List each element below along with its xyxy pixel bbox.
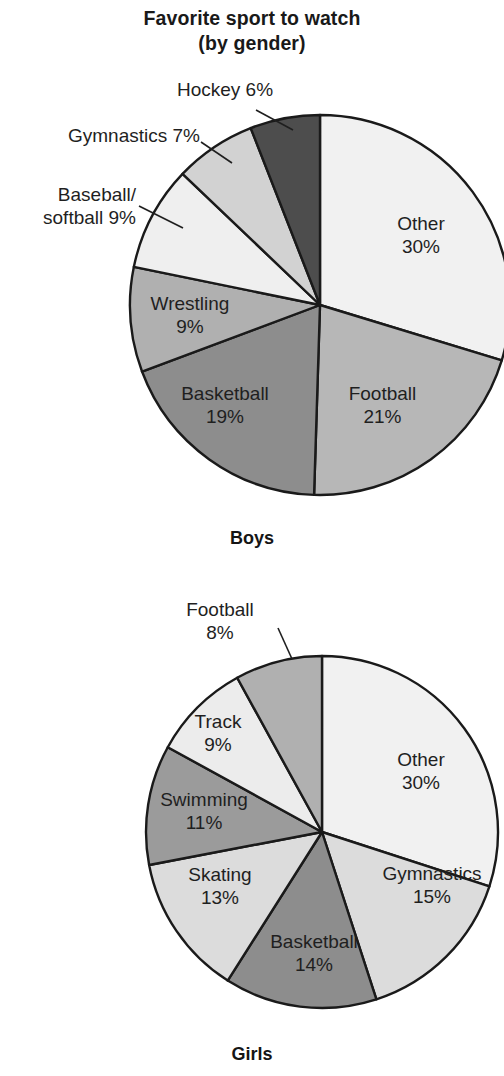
boys-caption: Boys [0,528,504,549]
girls-label-track: Track 9% [175,710,261,756]
leader-line-hockey [256,110,293,130]
girls-label-basketball-name: Basketball [270,931,358,952]
boys-label-basketball-name: Basketball [181,383,269,404]
pie-slice-baseball-softball [134,174,320,305]
chart-title: Favorite sport to watch (by gender) [0,6,504,56]
girls-label-other-name: Other [397,749,445,770]
boys-label-other-name: Other [397,213,445,234]
girls-label-football-pct: 8% [155,621,285,644]
girls-label-skating-name: Skating [188,864,251,885]
boys-label-baseball-line-1: Baseball/ [58,184,136,205]
boys-label-basketball-pct: 19% [160,405,290,428]
pie-slice-gymnastics [183,128,320,305]
girls-label-skating-pct: 13% [165,886,275,909]
girls-label-football-name: Football [186,599,254,620]
girls-label-swimming-name: Swimming [160,789,248,810]
boys-label-other-pct: 30% [376,235,466,258]
boys-label-basketball: Basketball 19% [160,382,290,428]
boys-label-gymnastics-text: Gymnastics 7% [68,125,200,146]
boys-label-baseball-line-2: softball 9% [0,206,136,229]
boys-label-football: Football 21% [325,382,440,428]
girls-label-basketball: Basketball 14% [250,930,378,976]
girls-label-gymnastics: Gymnastics 15% [360,862,504,908]
chart-title-line-2: (by gender) [0,31,504,56]
figure-root: Favorite sport to watch (by gender) Hock… [0,0,504,1076]
boys-label-wrestling-pct: 9% [130,315,250,338]
girls-label-swimming: Swimming 11% [136,788,272,834]
pie-slice-hockey [251,115,320,305]
girls-caption: Girls [0,1044,504,1065]
boys-label-wrestling: Wrestling 9% [130,292,250,338]
girls-label-swimming-pct: 11% [136,811,272,834]
girls-label-track-name: Track [195,711,242,732]
boys-label-baseball-softball: Baseball/ softball 9% [0,183,136,229]
leader-line-baseball-softball [139,206,183,228]
pie-slice-basketball [228,832,377,1008]
boys-label-other: Other 30% [376,212,466,258]
girls-label-gymnastics-pct: 15% [360,885,504,908]
leader-line-gymnastics-boys [201,142,232,163]
girls-label-skating: Skating 13% [165,863,275,909]
girls-label-gymnastics-name: Gymnastics [382,863,481,884]
boys-label-wrestling-name: Wrestling [151,293,230,314]
boys-caption-text: Boys [230,528,274,548]
girls-label-track-pct: 9% [175,733,261,756]
boys-label-gymnastics: Gymnastics 7% [0,124,200,147]
girls-label-football: Football 8% [155,598,285,644]
girls-label-basketball-pct: 14% [250,953,378,976]
boys-label-hockey-text: Hockey 6% [177,79,273,100]
girls-label-other: Other 30% [376,748,466,794]
boys-label-hockey: Hockey 6% [150,78,300,101]
boys-label-football-pct: 21% [325,405,440,428]
girls-caption-text: Girls [231,1044,272,1064]
girls-label-other-pct: 30% [376,771,466,794]
chart-title-line-1: Favorite sport to watch [144,7,361,29]
boys-label-football-name: Football [349,383,417,404]
